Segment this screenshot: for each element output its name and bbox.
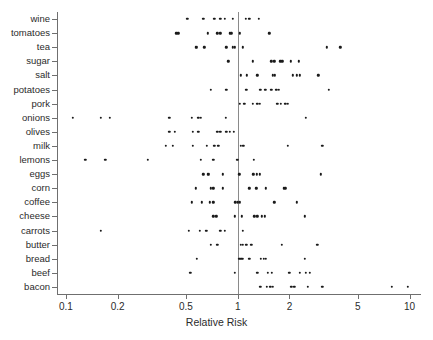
- y-tick-lemons: [52, 160, 57, 161]
- y-tick-label-potatoes: potatoes: [14, 85, 50, 95]
- data-point: [295, 74, 297, 76]
- y-tick-coffee: [52, 202, 57, 203]
- data-point: [280, 102, 282, 104]
- data-point: [272, 286, 274, 288]
- x-tick-label-2: 2: [287, 301, 293, 313]
- data-point: [174, 131, 176, 133]
- data-point: [316, 243, 318, 245]
- data-point: [251, 102, 253, 104]
- data-point: [233, 131, 235, 133]
- data-point: [225, 46, 227, 48]
- y-tick-label-butter: butter: [26, 240, 50, 250]
- y-tick-label-tea: tea: [37, 42, 50, 52]
- data-point: [259, 286, 261, 288]
- data-point: [303, 258, 305, 260]
- data-point: [243, 102, 245, 104]
- data-point: [196, 258, 198, 260]
- data-point: [209, 201, 211, 203]
- data-point: [248, 18, 250, 20]
- y-tick-butter: [52, 245, 57, 246]
- data-point: [195, 187, 197, 189]
- y-tick-potatoes: [52, 90, 57, 91]
- data-point: [273, 74, 275, 76]
- data-point: [100, 229, 102, 231]
- data-point: [229, 131, 231, 133]
- data-point: [306, 286, 308, 288]
- data-point: [288, 272, 290, 274]
- data-point: [265, 258, 267, 260]
- data-point: [224, 117, 226, 119]
- data-point: [212, 201, 214, 203]
- data-point: [248, 258, 250, 260]
- data-point: [192, 131, 194, 133]
- data-point: [321, 286, 323, 288]
- y-tick-label-milk: milk: [33, 141, 50, 151]
- data-point: [264, 88, 266, 90]
- data-point: [328, 88, 330, 90]
- data-point: [273, 201, 275, 203]
- y-axis-category-labels: winetomatoesteasugarsaltpotatoesporkonio…: [0, 0, 50, 340]
- data-point: [241, 215, 243, 217]
- data-point: [270, 88, 272, 90]
- data-point: [245, 243, 247, 245]
- y-tick-eggs: [52, 174, 57, 175]
- data-point: [239, 32, 241, 34]
- data-point: [246, 74, 248, 76]
- y-tick-tea: [52, 47, 57, 48]
- y-tick-salt: [52, 75, 57, 76]
- data-point: [297, 60, 299, 62]
- y-tick-label-olives: olives: [26, 127, 50, 137]
- data-point: [212, 159, 214, 161]
- data-point: [100, 117, 102, 119]
- data-point: [256, 215, 258, 217]
- data-point: [210, 243, 212, 245]
- data-point: [147, 159, 149, 161]
- data-point: [168, 131, 170, 133]
- data-point: [251, 60, 253, 62]
- data-point: [271, 272, 273, 274]
- data-point: [238, 173, 240, 175]
- x-axis-title: Relative Risk: [0, 316, 433, 328]
- data-point: [225, 88, 227, 90]
- x-tick-label-5: 5: [355, 301, 361, 313]
- data-point: [264, 215, 266, 217]
- x-tick-label-0.2: 0.2: [111, 301, 125, 313]
- data-point: [222, 173, 224, 175]
- data-point: [258, 173, 260, 175]
- data-point: [215, 215, 217, 217]
- data-point: [277, 88, 279, 90]
- data-point: [219, 18, 221, 20]
- x-tick-2: [289, 294, 290, 299]
- x-tick-label-10: 10: [404, 301, 415, 313]
- data-point: [256, 272, 258, 274]
- data-point: [188, 229, 190, 231]
- data-point: [239, 74, 241, 76]
- data-point: [265, 187, 267, 189]
- data-point: [248, 187, 250, 189]
- y-tick-label-corn: corn: [32, 183, 50, 193]
- data-point: [109, 117, 111, 119]
- data-point: [391, 286, 393, 288]
- y-tick-label-beef: beef: [32, 268, 51, 278]
- y-tick-wine: [52, 19, 57, 20]
- data-point: [295, 201, 297, 203]
- data-point: [290, 60, 292, 62]
- y-tick-label-onions: onions: [22, 113, 50, 123]
- data-point: [203, 46, 205, 48]
- data-point: [212, 187, 214, 189]
- data-point: [304, 272, 306, 274]
- data-point: [326, 46, 328, 48]
- data-point: [202, 173, 204, 175]
- data-point: [207, 32, 209, 34]
- data-point: [227, 60, 229, 62]
- y-tick-corn: [52, 188, 57, 189]
- data-point: [255, 187, 257, 189]
- data-point: [210, 88, 212, 90]
- x-tick-0.1: [66, 294, 67, 299]
- plot-area: [58, 12, 420, 294]
- y-tick-label-cheese: cheese: [19, 211, 50, 221]
- data-point: [267, 272, 269, 274]
- data-point: [233, 272, 235, 274]
- y-tick-label-lemons: lemons: [19, 155, 50, 165]
- data-point: [284, 187, 286, 189]
